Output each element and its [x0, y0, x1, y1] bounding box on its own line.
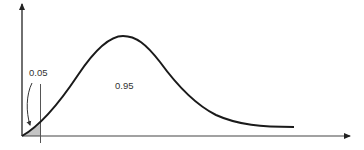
density-curve — [22, 36, 294, 136]
density-chart: 0.05 0.95 — [0, 0, 364, 150]
main-area-label: 0.95 — [115, 80, 134, 91]
tail-pointer-arrow — [27, 83, 32, 125]
left-tail-label: 0.05 — [29, 67, 48, 78]
